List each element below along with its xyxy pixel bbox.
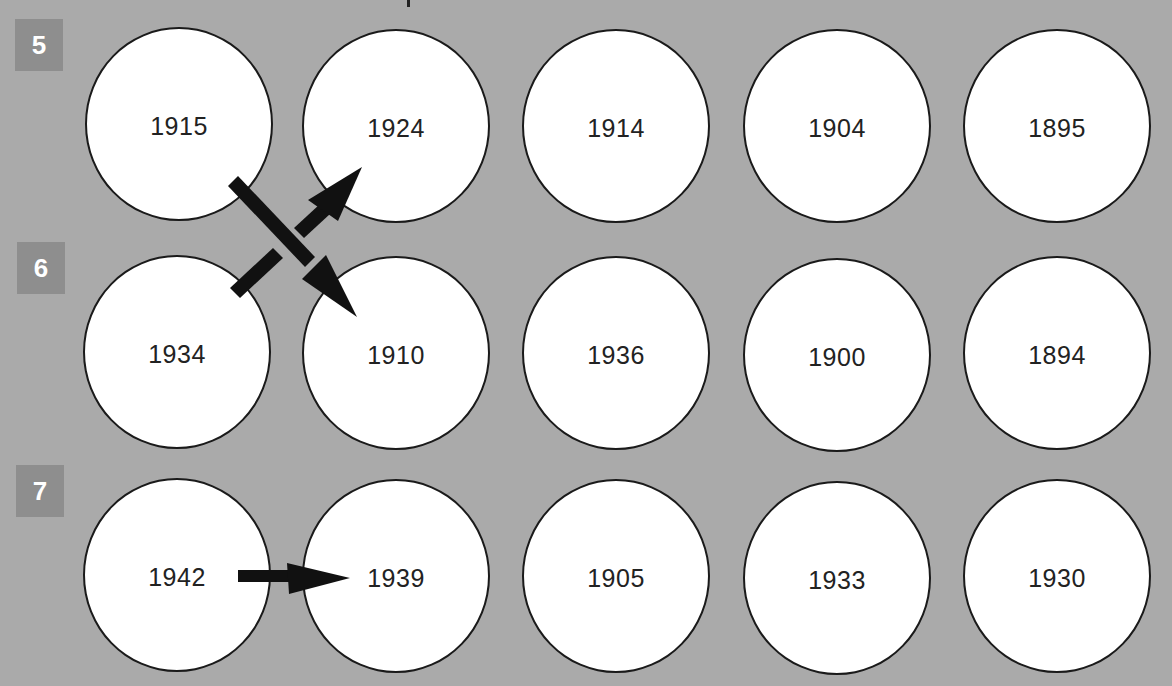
year-circle: 1900	[743, 258, 931, 452]
year-circle: 1914	[522, 29, 710, 223]
year-circle: 1905	[522, 479, 710, 673]
year-circle: 1934	[83, 255, 271, 449]
year-label: 1895	[1028, 114, 1086, 143]
row-badge-7: 7	[16, 465, 64, 517]
year-swap-diagram: 5 6 7 1915 1924 1914 1904 1895 1934 1910…	[0, 0, 1172, 686]
year-circle: 1936	[522, 256, 710, 450]
row-badge-5: 5	[15, 19, 63, 71]
year-label: 1900	[808, 343, 866, 372]
year-label: 1939	[367, 564, 425, 593]
year-label: 1894	[1028, 341, 1086, 370]
row-badge-6: 6	[17, 242, 65, 294]
year-label: 1933	[808, 566, 866, 595]
year-circle: 1939	[302, 479, 490, 673]
year-circle: 1930	[963, 479, 1151, 673]
year-label: 1924	[367, 114, 425, 143]
year-label: 1915	[150, 112, 208, 141]
year-circle: 1915	[85, 27, 273, 221]
year-circle: 1895	[963, 29, 1151, 223]
year-circle: 1933	[743, 481, 931, 675]
year-label: 1910	[367, 341, 425, 370]
cropped-glyph-fragment	[407, 0, 410, 7]
year-label: 1934	[148, 340, 206, 369]
year-label: 1930	[1028, 564, 1086, 593]
year-circle: 1894	[963, 256, 1151, 450]
year-label: 1914	[587, 114, 645, 143]
year-label: 1936	[587, 341, 645, 370]
year-label: 1904	[808, 114, 866, 143]
year-circle: 1924	[302, 29, 490, 223]
year-circle: 1910	[302, 256, 490, 450]
year-label: 1942	[148, 563, 206, 592]
year-circle: 1942	[83, 478, 271, 672]
year-label: 1905	[587, 564, 645, 593]
year-circle: 1904	[743, 29, 931, 223]
